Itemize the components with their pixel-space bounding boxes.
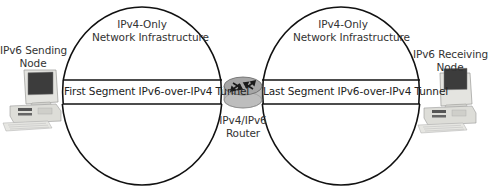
last-tunnel-label: Last Segment IPv6-over-IPv4 Tunnel	[263, 85, 419, 98]
receiving-node-label: IPv6 Receiving Node	[413, 48, 487, 74]
sending-node-label: IPv6 Sending Node	[0, 44, 66, 70]
left-network-label-line2: Network Infrastructure	[92, 31, 192, 44]
receiving-node-label-line1: IPv6 Receiving	[413, 48, 487, 61]
left-network-label-line1: IPv4-Only	[92, 18, 192, 31]
receiving-node-label-line2: Node	[413, 61, 487, 74]
first-tunnel-label: First Segment IPv6-over-IPv4 Tunnel	[64, 85, 220, 98]
sending-node-label-line1: IPv6 Sending	[0, 44, 66, 57]
right-network-label-line1: IPv4-Only	[293, 18, 393, 31]
right-network-label: IPv4-Only Network Infrastructure	[293, 18, 393, 44]
router-label: IPv4/IPv6 Router	[213, 114, 273, 140]
sending-node-computer-icon	[3, 70, 61, 131]
right-network-label-line2: Network Infrastructure	[293, 31, 393, 44]
router-label-line2: Router	[213, 127, 273, 140]
router-label-line1: IPv4/IPv6	[213, 114, 273, 127]
left-network-label: IPv4-Only Network Infrastructure	[92, 18, 192, 44]
sending-node-label-line2: Node	[0, 57, 66, 70]
receiving-node-computer-icon	[418, 68, 476, 133]
